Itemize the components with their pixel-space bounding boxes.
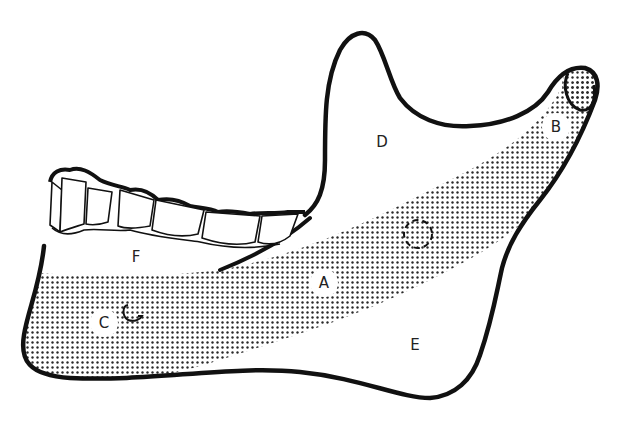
label-e: E [410,336,419,354]
label-c: C [99,314,109,332]
label-f: F [132,248,141,266]
label-d: D [376,133,388,151]
mandible-diagram: A B C D E F [0,0,633,424]
label-b: B [551,118,561,136]
label-a: A [319,274,330,292]
teeth [50,169,305,248]
